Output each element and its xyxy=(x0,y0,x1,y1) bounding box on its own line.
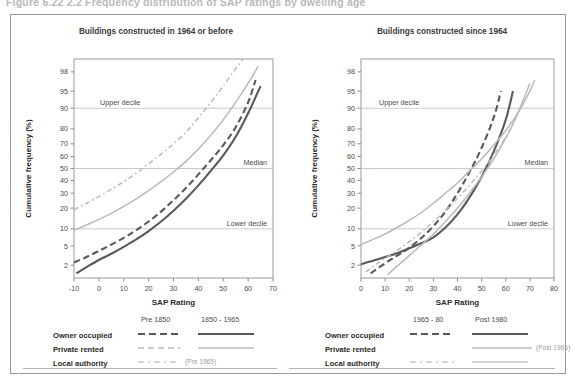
svg-text:20: 20 xyxy=(145,284,153,293)
chart-panel-post-1964: Buildings constructed since 1964 2510203… xyxy=(289,15,567,307)
legend-swatch-owner-1850-1965 xyxy=(197,329,255,339)
plot-area-post-1964: 2510203040506070809095980102030405060708… xyxy=(289,15,567,307)
svg-text:40: 40 xyxy=(194,284,202,293)
svg-text:90: 90 xyxy=(60,104,68,113)
svg-text:20: 20 xyxy=(347,204,355,213)
svg-text:Median: Median xyxy=(243,158,267,167)
legend-swatch-owner-post1980 xyxy=(471,329,529,339)
svg-text:SAP Rating: SAP Rating xyxy=(436,298,480,307)
svg-text:10: 10 xyxy=(381,284,389,293)
svg-text:Upper decile: Upper decile xyxy=(379,98,419,107)
svg-text:Median: Median xyxy=(524,158,548,167)
legend-note-pre-1965: (Pre 1965) xyxy=(185,358,216,365)
legend-swatch-private-1850-1965 xyxy=(197,343,255,353)
legend-swatch-owner-1965-80 xyxy=(409,329,455,339)
svg-text:5: 5 xyxy=(351,242,355,251)
legend-swatch-private-post1965 xyxy=(471,343,533,353)
svg-text:2: 2 xyxy=(351,261,355,270)
svg-text:70: 70 xyxy=(526,284,534,293)
svg-text:70: 70 xyxy=(347,139,355,148)
svg-text:70: 70 xyxy=(269,284,277,293)
svg-text:SAP Rating: SAP Rating xyxy=(152,298,196,307)
legend-column-header-2: 1850 - 1965 xyxy=(201,315,239,324)
svg-text:80: 80 xyxy=(60,124,68,133)
svg-text:0: 0 xyxy=(359,284,363,293)
legend-row-private-rented: Private rented xyxy=(325,345,376,354)
svg-text:60: 60 xyxy=(347,152,355,161)
svg-text:30: 30 xyxy=(60,189,68,198)
legend-row-local-authority: Local authority xyxy=(53,359,107,368)
svg-text:98: 98 xyxy=(60,67,68,76)
svg-text:10: 10 xyxy=(60,224,68,233)
legend-note-post-1965: (Post 1965) xyxy=(536,344,570,351)
svg-text:50: 50 xyxy=(478,284,486,293)
svg-text:Cumulative frequency (%): Cumulative frequency (%) xyxy=(310,119,319,218)
svg-text:98: 98 xyxy=(347,67,355,76)
svg-text:50: 50 xyxy=(60,164,68,173)
legend-swatch-local-authority-1965-80 xyxy=(409,357,455,367)
svg-text:10: 10 xyxy=(347,224,355,233)
chart-panel-pre-1964: Buildings constructed in 1964 or before … xyxy=(11,15,289,307)
svg-text:Cumulative frequency (%): Cumulative frequency (%) xyxy=(24,119,33,218)
legend-divider-right xyxy=(289,368,555,369)
svg-text:2: 2 xyxy=(64,261,68,270)
legend-column-header-2: Post 1980 xyxy=(475,315,507,324)
svg-text:-10: -10 xyxy=(69,284,79,293)
svg-text:50: 50 xyxy=(219,284,227,293)
svg-text:Lower decile: Lower decile xyxy=(508,219,548,228)
svg-text:60: 60 xyxy=(60,152,68,161)
svg-text:80: 80 xyxy=(550,284,558,293)
svg-text:70: 70 xyxy=(60,139,68,148)
svg-text:0: 0 xyxy=(97,284,101,293)
figure-caption: Figure 6.22 2.2 Frequency distribution o… xyxy=(6,0,566,8)
figure-frame: Buildings constructed in 1964 or before … xyxy=(10,14,566,374)
svg-text:5: 5 xyxy=(64,242,68,251)
legend-post-1964: 1965 - 80 Post 1980 Owner occupied Priva… xyxy=(289,307,567,373)
legend-divider-left xyxy=(23,368,277,369)
svg-text:40: 40 xyxy=(60,176,68,185)
legend-swatch-local-authority-pre1965 xyxy=(137,357,185,367)
svg-text:30: 30 xyxy=(429,284,437,293)
svg-text:Upper decile: Upper decile xyxy=(100,98,140,107)
svg-text:50: 50 xyxy=(347,164,355,173)
legend-row-owner-occupied: Owner occupied xyxy=(325,331,384,340)
legend-column-header-1: 1965 - 80 xyxy=(413,315,443,324)
svg-text:80: 80 xyxy=(347,124,355,133)
svg-text:10: 10 xyxy=(120,284,128,293)
legend-swatch-local-authority-post1980 xyxy=(471,357,529,367)
legend-row-private-rented: Private rented xyxy=(53,345,104,354)
legend-row-local-authority: Local authority xyxy=(325,359,379,368)
legend-swatch-owner-pre1850 xyxy=(137,329,181,339)
svg-text:60: 60 xyxy=(502,284,510,293)
legend-swatch-private-pre1850 xyxy=(137,343,181,353)
legend-row-owner-occupied: Owner occupied xyxy=(53,331,112,340)
svg-text:90: 90 xyxy=(347,104,355,113)
svg-text:20: 20 xyxy=(60,204,68,213)
svg-text:30: 30 xyxy=(170,284,178,293)
svg-text:60: 60 xyxy=(244,284,252,293)
svg-text:95: 95 xyxy=(60,87,68,96)
svg-text:40: 40 xyxy=(454,284,462,293)
legend-pre-1964: Pre 1850 1850 - 1965 Owner occupied Priv… xyxy=(11,307,289,373)
svg-text:20: 20 xyxy=(405,284,413,293)
svg-text:95: 95 xyxy=(347,87,355,96)
legend-column-header-1: Pre 1850 xyxy=(141,315,170,324)
svg-text:30: 30 xyxy=(347,189,355,198)
svg-text:Lower decile: Lower decile xyxy=(227,219,267,228)
plot-area-pre-1964: 251020304050607080909598-100102030405060… xyxy=(11,15,289,307)
svg-text:40: 40 xyxy=(347,176,355,185)
